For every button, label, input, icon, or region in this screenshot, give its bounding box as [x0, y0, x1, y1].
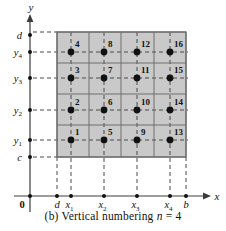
x-axis-tick [135, 194, 139, 198]
node-dot [134, 49, 141, 56]
node-dot [167, 49, 174, 56]
y-tick-label: c [17, 152, 22, 163]
y-axis-tick [28, 138, 32, 142]
node-number-label: 7 [108, 65, 113, 75]
node-number-label: 9 [141, 127, 146, 137]
node-dot [134, 75, 141, 82]
node-dot [167, 137, 174, 144]
node-number-label: 12 [141, 39, 151, 49]
x-tick-label: d [54, 199, 60, 210]
y-tick-label: y1 [13, 135, 23, 149]
node-dot [101, 107, 108, 114]
x-axis-label: x [214, 190, 220, 202]
y-axis-tick [28, 50, 32, 54]
node-number-label: 6 [108, 97, 113, 107]
node-dot [68, 49, 75, 56]
figure-caption: (b) Vertical numbering n = 4 [0, 210, 226, 222]
node-dot [101, 75, 108, 82]
x-axis-arrowhead [203, 193, 211, 200]
node-dot [134, 137, 141, 144]
node-number-label: 13 [174, 127, 184, 137]
caption-prefix: (b) [45, 210, 59, 222]
x-axis-tick [55, 194, 59, 198]
caption-main-text: Vertical numbering [62, 210, 154, 222]
node-number-label: 1 [75, 127, 80, 137]
x-tick-label: b [183, 199, 188, 210]
y-tick-label: y3 [13, 73, 23, 87]
node-dot [167, 107, 174, 114]
y-axis-arrowhead [27, 14, 34, 22]
node-number-label: 10 [141, 97, 151, 107]
x-axis-tick [69, 194, 73, 198]
node-number-label: 16 [174, 39, 184, 49]
y-axis-label: y [28, 1, 34, 13]
y-axis-tick [28, 108, 32, 112]
x-axis-tick [168, 194, 172, 198]
node-dot [68, 75, 75, 82]
node-number-label: 11 [141, 65, 150, 75]
node-dot [101, 137, 108, 144]
vertical-numbering-diagram: 0dx1x2x3x4bdy4y3y2y1c 123456789101112131… [0, 0, 226, 231]
node-number-label: 4 [75, 39, 80, 49]
y-axis-tick [28, 76, 32, 80]
origin-tick [28, 194, 32, 198]
node-number-label: 3 [75, 65, 80, 75]
x-axis-tick [184, 194, 188, 198]
origin-label: 0 [19, 199, 24, 210]
figure-container: 0dx1x2x3x4bdy4y3y2y1c 123456789101112131… [0, 0, 226, 231]
node-dot [167, 75, 174, 82]
node-number-label: 2 [75, 97, 80, 107]
node-number-label: 14 [174, 97, 184, 107]
node-dot [134, 107, 141, 114]
y-axis-tick [28, 155, 32, 159]
x-axis-tick [102, 194, 106, 198]
y-axis-tick [28, 33, 32, 37]
y-tick-label: y2 [13, 105, 23, 119]
node-number-label: 15 [174, 65, 184, 75]
y-tick-label: d [17, 30, 23, 41]
node-dot [68, 107, 75, 114]
node-dot [68, 137, 75, 144]
y-tick-label: y4 [13, 47, 23, 61]
node-number-label: 5 [108, 127, 113, 137]
node-number-label: 8 [108, 39, 113, 49]
caption-variable: n [157, 210, 163, 222]
node-dot [101, 49, 108, 56]
caption-equation: = 4 [166, 210, 182, 222]
